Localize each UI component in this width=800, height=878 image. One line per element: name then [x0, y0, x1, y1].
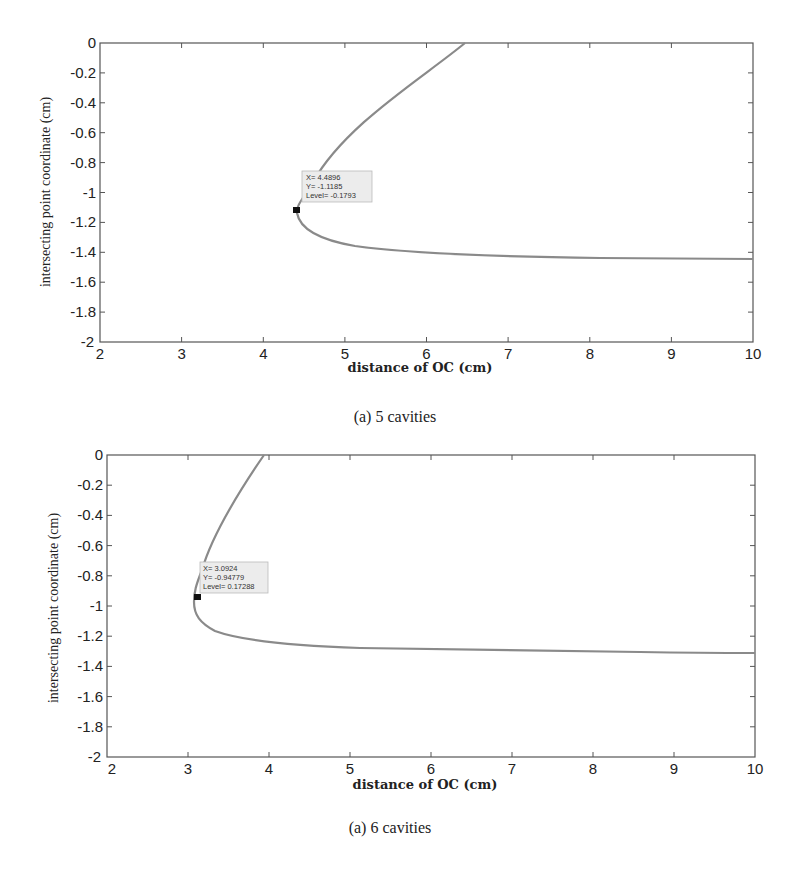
y-tick-labels: 0 -0.2 -0.4 -0.6 -0.8 -1 -1.2 -1.4 -1.6 …	[70, 34, 96, 350]
x-tick-label: 6	[427, 760, 435, 777]
x-ticks	[188, 455, 674, 757]
y-tick-label: -1.2	[70, 213, 96, 230]
x-tick-label: 4	[265, 760, 273, 777]
x-tick-label: 10	[745, 345, 762, 362]
contour-curve	[194, 455, 755, 653]
x-axis-title: distance of OC (cm)	[353, 777, 498, 792]
y-tick-label: -0.6	[70, 124, 96, 141]
y-tick-label: 0	[95, 446, 103, 463]
datatip-level: Level= 0.17288	[203, 582, 255, 591]
x-tick-label: 5	[346, 760, 354, 777]
y-tick-label: -0.8	[70, 154, 96, 171]
y-tick-label: -1.6	[70, 273, 96, 290]
x-axis-title: distance of OC (cm)	[348, 360, 493, 375]
y-ticks	[100, 73, 753, 312]
x-tick-label: 2	[96, 345, 104, 362]
y-axis-title: intersecting point coordinate (cm)	[38, 97, 54, 287]
datatip[interactable]: X= 3.0924 Y= -0.94779 Level= 0.17288	[194, 562, 268, 600]
y-tick-labels: 0 -0.2 -0.4 -0.6 -0.8 -1 -1.2 -1.4 -1.6 …	[77, 446, 103, 765]
datatip-y: Y= -0.94779	[203, 573, 244, 582]
datatip-level: Level= -0.1793	[306, 191, 356, 200]
chart-6-cavities: 2 3 4 5 6 7 8 9 10 0 -0.2 -0.4 -0.6 -0.8…	[0, 420, 800, 878]
x-tick-label: 7	[504, 345, 512, 362]
figure-5-cavities: 2 3 4 5 6 7 8 9 10 0 -0.2 -0.4 -0.6 -0.8…	[0, 0, 800, 440]
x-tick-label: 3	[177, 345, 185, 362]
y-ticks	[107, 485, 755, 727]
y-tick-label: -1	[90, 597, 103, 614]
datatip-x: X= 4.4896	[306, 173, 340, 182]
x-tick-label: 4	[259, 345, 267, 362]
y-tick-label: -2	[88, 748, 101, 765]
datatip-y: Y= -1.1185	[306, 182, 342, 191]
y-tick-label: -0.4	[77, 506, 103, 523]
y-tick-label: -1.4	[77, 657, 103, 674]
datatip-x: X= 3.0924	[203, 564, 237, 573]
x-tick-label: 2	[108, 760, 116, 777]
datatip-marker-icon	[194, 594, 201, 600]
x-tick-label: 9	[667, 345, 675, 362]
x-tick-label: 9	[670, 760, 678, 777]
y-tick-label: -0.8	[77, 567, 103, 584]
x-tick-label: 3	[184, 760, 192, 777]
y-tick-label: -1.6	[77, 688, 103, 705]
y-tick-label: -0.2	[70, 64, 96, 81]
x-tick-label: 8	[586, 345, 594, 362]
y-tick-label: -1	[83, 184, 96, 201]
datatip-marker-icon	[293, 207, 300, 213]
contour-curve	[297, 43, 753, 259]
y-tick-label: -1.4	[70, 243, 96, 260]
x-tick-label: 8	[589, 760, 597, 777]
x-tick-labels: 2 3 4 5 6 7 8 9 10	[108, 760, 764, 777]
y-tick-label: -1.2	[77, 627, 103, 644]
x-tick-label: 10	[747, 760, 764, 777]
y-tick-label: 0	[88, 34, 96, 51]
figure-6-cavities: 2 3 4 5 6 7 8 9 10 0 -0.2 -0.4 -0.6 -0.8…	[0, 420, 800, 878]
chart-5-cavities: 2 3 4 5 6 7 8 9 10 0 -0.2 -0.4 -0.6 -0.8…	[0, 0, 800, 440]
y-tick-label: -0.2	[77, 476, 103, 493]
figure-caption: (a) 6 cavities	[0, 819, 790, 837]
y-tick-label: -1.8	[77, 718, 103, 735]
plot-frame	[107, 455, 755, 757]
y-tick-label: -0.6	[77, 537, 103, 554]
y-tick-label: -0.4	[70, 94, 96, 111]
y-tick-label: -2	[81, 333, 94, 350]
x-tick-label: 7	[508, 760, 516, 777]
x-ticks	[182, 43, 672, 342]
y-axis-title: intersecting point coordinate (cm)	[46, 513, 62, 703]
y-tick-label: -1.8	[70, 303, 96, 320]
plot-frame	[100, 43, 753, 342]
datatip[interactable]: X= 4.4896 Y= -1.1185 Level= -0.1793	[293, 171, 372, 213]
